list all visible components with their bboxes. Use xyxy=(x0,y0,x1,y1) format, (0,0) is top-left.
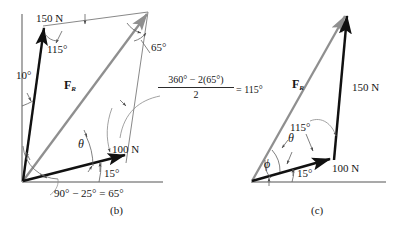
panel-c-resultant-label: FR xyxy=(292,78,304,92)
panel-b-angle-115-arc xyxy=(45,34,57,41)
panel-c-theta-label: θ xyxy=(288,132,294,144)
panel-b-theta-arc xyxy=(86,136,93,166)
panel-b-theta-tick-upper xyxy=(84,130,87,137)
panel-b-angle-115-label: 115° xyxy=(47,44,68,55)
panel-b-fraction-bar xyxy=(158,87,234,88)
panel-b-fraction-numerator: 360° − 2(65°) xyxy=(158,74,234,86)
panel-b-fraction-denominator: 2 xyxy=(158,89,234,101)
panel-b-formula-leader xyxy=(120,96,160,138)
panel-b-angle-10-leader xyxy=(27,93,31,101)
panel-c-angle-15-label: 15° xyxy=(297,168,312,179)
panel-b-resultant-label: FR xyxy=(64,79,76,93)
panel-b-fraction: 360° − 2(65°) 2 xyxy=(158,74,234,100)
panel-c-force-150-vector xyxy=(334,16,347,160)
panel-b-force-150-label: 150 N xyxy=(36,13,63,24)
panel-b-theta-tick-lower xyxy=(88,166,92,172)
panel-b-interior-angle-tick xyxy=(120,100,126,106)
panel-b-angle-10-arc xyxy=(22,101,33,106)
panel-b-group xyxy=(22,12,163,195)
panel-c-theta-tick-lower xyxy=(287,152,292,164)
panel-b-force-100-label: 100 N xyxy=(112,144,139,155)
panel-b-apex-65-label: 65° xyxy=(151,42,166,53)
panel-c-angle-115-leader xyxy=(306,134,313,151)
panel-c-phi-label: ϕ xyxy=(264,158,270,170)
panel-b-fraction-result: = 115° xyxy=(236,84,263,95)
panel-c-theta-arc xyxy=(272,150,280,172)
panel-c-angle-115-arc xyxy=(310,119,336,136)
panel-c-caption: (c) xyxy=(311,205,323,216)
panel-c-group xyxy=(251,16,386,186)
panel-c-resultant-subscript: R xyxy=(299,84,304,92)
panel-b-resultant-subscript: R xyxy=(71,85,76,93)
panel-b-angle-15-label: 15° xyxy=(104,168,119,179)
panel-b-caption: (b) xyxy=(110,205,123,216)
panel-b-angle-10-label: 10° xyxy=(16,70,31,81)
panel-c-force-150-label: 150 N xyxy=(352,82,379,93)
panel-b-baseline-equation: 90° − 25° = 65° xyxy=(54,188,124,199)
panel-b-theta-label: θ xyxy=(78,138,84,150)
panel-c-force-100-label: 100 N xyxy=(332,163,359,174)
